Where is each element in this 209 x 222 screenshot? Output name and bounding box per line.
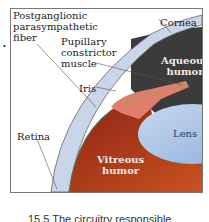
label-iris: Iris xyxy=(79,83,96,94)
label-cornea: Cornea xyxy=(160,17,197,28)
retina-leader xyxy=(37,139,57,189)
caption-text: 15.5 The circuitry responsible xyxy=(28,213,171,222)
label-vitreous-humor: Vitreous humor xyxy=(97,154,144,176)
label-retina: Retina xyxy=(17,131,50,142)
label-lens: Lens xyxy=(173,128,197,139)
label-aqueous-humor: Aqueous humor xyxy=(161,55,203,77)
label-pupillary-constrictor: Pupillary constrictor muscle xyxy=(61,36,117,69)
margin-mark: • xyxy=(2,42,7,51)
eye-diagram: Postganglionic parasympathetic fiber Cor… xyxy=(10,8,203,193)
figure-caption: 15.5 The circuitry responsible xyxy=(0,210,209,222)
